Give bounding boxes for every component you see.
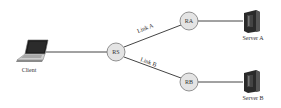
laptop-icon (16, 40, 48, 62)
router-rb: RB (180, 73, 198, 91)
server-icon (244, 70, 260, 93)
router-ra-label: RA (185, 18, 194, 24)
link-a-label: Link A (136, 22, 154, 34)
router-rs-label: RS (112, 49, 119, 55)
network-diagram: Link A Link B Client RS RA RB Server A S… (0, 0, 281, 108)
server-a-label: Server A (242, 35, 264, 41)
server-b-label: Server B (242, 95, 263, 101)
router-ra: RA (180, 12, 198, 30)
server-icon (244, 10, 260, 33)
router-rb-label: RB (185, 79, 193, 85)
client-label: Client (22, 67, 37, 73)
router-rs: RS (107, 43, 125, 61)
